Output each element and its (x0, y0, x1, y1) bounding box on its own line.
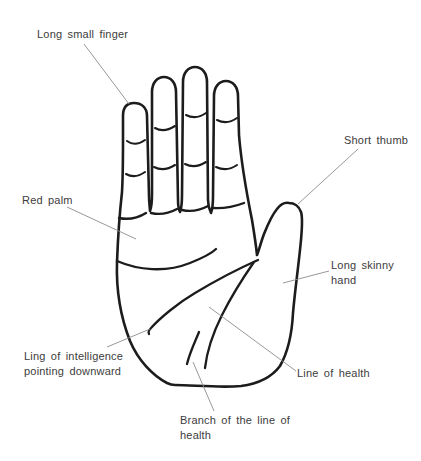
label-long-small-finger: Long small finger (37, 27, 128, 42)
long-small-finger-leader-line (84, 44, 129, 104)
label-line-of-intelligence: Ling of intelligence pointing downward (24, 349, 123, 378)
label-long-skinny-hand-line2: hand (331, 273, 394, 288)
label-red-palm: Red palm (22, 193, 73, 208)
label-branch-of-health-line2: health (180, 428, 290, 443)
label-branch-of-health: Branch of the line of health (180, 413, 290, 442)
label-long-skinny-hand: Long skinny hand (331, 258, 394, 287)
hand-outline (117, 67, 302, 387)
label-line-of-health: Line of health (297, 366, 370, 381)
label-line-of-intelligence-line1: Ling of intelligence (24, 349, 123, 364)
label-branch-of-health-line1: Branch of the line of (180, 413, 290, 428)
palmistry-hand-diagram: Long small finger Short thumb Red palm L… (0, 0, 421, 461)
hand-line-art (0, 0, 421, 461)
label-long-skinny-hand-line1: Long skinny (331, 258, 394, 273)
label-line-of-intelligence-line2: pointing downward (24, 364, 123, 379)
short-thumb-leader-line (298, 149, 358, 204)
label-short-thumb: Short thumb (344, 133, 408, 148)
